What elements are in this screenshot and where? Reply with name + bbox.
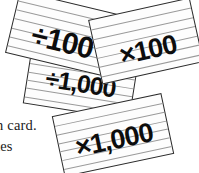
- illustration-canvas: n card. tes ÷1,000 ÷100 ×100 ×1,000: [0, 0, 199, 173]
- body-text-line-2: tes: [0, 138, 13, 155]
- body-text-line-1: n card.: [0, 117, 37, 134]
